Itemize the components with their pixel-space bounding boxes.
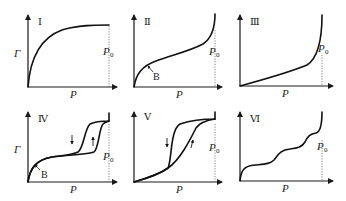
x-axis-label: P <box>69 183 77 195</box>
svg-text:0: 0 <box>110 156 114 164</box>
panel-2: B Ⅱ P P 0 <box>134 14 222 100</box>
svg-text:P: P <box>316 140 324 152</box>
isotherm-figure: Ⅰ Γ P P 0 B Ⅱ P P 0 Ⅲ P P 0 B <box>0 0 346 201</box>
svg-text:P: P <box>208 141 216 153</box>
svg-text:P: P <box>317 42 325 54</box>
svg-text:0: 0 <box>110 51 114 59</box>
point-b-label: B <box>41 169 48 180</box>
panel-label: Ⅳ <box>38 113 49 124</box>
svg-text:P: P <box>102 45 110 57</box>
panel-label: Ⅵ <box>249 113 260 124</box>
panel-4: B Ⅳ Γ P P 0 <box>13 112 117 195</box>
y-axis-label: Γ <box>13 143 21 155</box>
panel-1: Ⅰ Γ P P 0 <box>13 15 117 100</box>
x-axis-label: P <box>175 183 183 195</box>
x-axis-label: P <box>69 88 77 100</box>
svg-text:P: P <box>208 45 216 57</box>
svg-text:0: 0 <box>324 146 328 154</box>
panel-label: Ⅱ <box>144 16 151 27</box>
y-axis-label: Γ <box>13 47 21 59</box>
point-b-label: B <box>153 71 160 82</box>
panel-3: Ⅲ P P 0 <box>240 15 333 99</box>
x-axis-label: P <box>281 87 289 99</box>
svg-text:0: 0 <box>325 48 329 56</box>
panel-label: Ⅲ <box>250 16 260 27</box>
svg-text:0: 0 <box>216 51 220 59</box>
svg-text:P: P <box>102 150 110 162</box>
panel-6: Ⅵ P P 0 <box>240 112 333 194</box>
isotherm-svg: Ⅰ Γ P P 0 B Ⅱ P P 0 Ⅲ P P 0 B <box>0 0 346 201</box>
panel-label: Ⅴ <box>143 111 152 122</box>
x-axis-label: P <box>281 182 289 194</box>
x-axis-label: P <box>175 88 183 100</box>
panel-label: Ⅰ <box>38 16 42 27</box>
panel-5: Ⅴ P P 0 <box>134 111 222 195</box>
svg-text:0: 0 <box>216 147 220 155</box>
